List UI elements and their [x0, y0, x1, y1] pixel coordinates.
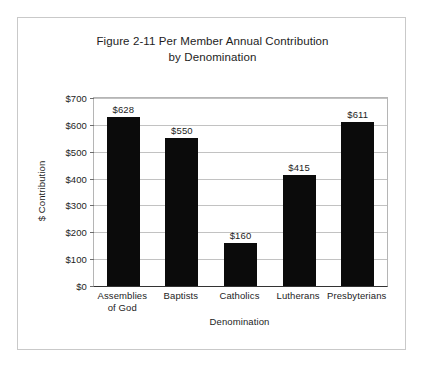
category-label: Baptists [164, 290, 199, 302]
bar[interactable] [165, 138, 198, 286]
gridline [94, 98, 387, 99]
y-tick-label: $700 [65, 93, 87, 104]
x-axis-title: Denomination [93, 316, 386, 327]
category-label-line: Presbyterians [327, 290, 386, 302]
bar-value-label: $160 [230, 230, 252, 241]
category-label: Assembliesof God [98, 290, 148, 313]
y-tick-mark [90, 152, 94, 153]
category-label-line: Assemblies [98, 290, 148, 302]
y-axis-title: $ Contribution [36, 161, 47, 222]
chart-title-line-2: by Denomination [18, 49, 407, 65]
y-tick-mark [90, 125, 94, 126]
y-tick-label: $0 [76, 281, 87, 292]
plot-area: $0$100$200$300$400$500$600$700 $628$550$… [93, 97, 388, 287]
bar[interactable] [107, 117, 140, 286]
chart-title: Figure 2-11 Per Member Annual Contributi… [18, 33, 407, 65]
bar[interactable] [341, 122, 374, 286]
y-tick-mark [90, 259, 94, 260]
y-tick-mark [90, 179, 94, 180]
bar[interactable] [283, 175, 316, 286]
y-tick-mark [90, 205, 94, 206]
category-label-line: of God [98, 302, 148, 314]
category-label-line: Baptists [164, 290, 199, 302]
bar-value-label: $611 [347, 109, 368, 120]
y-tick-mark [90, 98, 94, 99]
bar-value-label: $415 [288, 162, 310, 173]
y-tick-label: $400 [65, 173, 87, 184]
y-tick-label: $200 [65, 227, 87, 238]
bar-value-label: $550 [171, 125, 193, 136]
bar-value-label: $628 [113, 104, 135, 115]
chart-title-line-1: Figure 2-11 Per Member Annual Contributi… [18, 33, 407, 49]
y-tick-mark [90, 232, 94, 233]
y-tick-label: $300 [65, 200, 87, 211]
y-tick-mark [90, 286, 94, 287]
figure-frame: Figure 2-11 Per Member Annual Contributi… [17, 17, 406, 350]
y-tick-label: $500 [65, 146, 87, 157]
y-tick-label: $600 [65, 119, 87, 130]
bar[interactable] [224, 243, 257, 286]
category-label: Catholics [220, 290, 260, 302]
y-tick-label: $100 [65, 254, 87, 265]
category-label-line: Lutherans [277, 290, 320, 302]
category-label: Lutherans [277, 290, 320, 302]
category-label: Presbyterians [327, 290, 386, 302]
category-label-line: Catholics [220, 290, 260, 302]
